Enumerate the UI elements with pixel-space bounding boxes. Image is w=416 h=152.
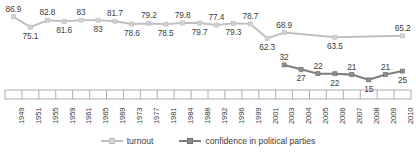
data-label: 62.3 (259, 42, 275, 52)
data-label: 32 (280, 52, 289, 62)
legend-label-confidence: confidence in political parties (205, 136, 315, 146)
chart-container: 86.975.182.881.6838381.778.679.278.579.8… (0, 0, 416, 152)
data-label: 86.9 (6, 4, 22, 14)
x-axis-tick-label: 1961 (84, 108, 93, 125)
x-axis-tick-label: 1977 (152, 108, 161, 125)
x-axis-tick-label: 2008 (372, 108, 381, 125)
x-axis-tick-label: 1992 (220, 108, 229, 125)
legend-line-icon-turnout (101, 137, 123, 145)
data-label: 15 (364, 84, 373, 94)
legend-item-turnout[interactable]: turnout (101, 136, 154, 146)
data-label: 22 (330, 78, 339, 88)
x-axis-tick-label: 2009 (389, 108, 398, 125)
x-axis-tick-label: 1955 (51, 108, 60, 125)
x-axis-tick-label: 2007 (355, 108, 364, 125)
data-label: 79.3 (226, 27, 242, 37)
x-axis-tick-label: 2004 (304, 108, 313, 125)
x-axis-tick-label: 1996 (237, 108, 246, 125)
x-axis-tick-label: 1999 (254, 108, 263, 125)
data-label: 78.7 (242, 11, 258, 21)
x-axis-tick-label: 2005 (321, 108, 330, 125)
data-label: 22 (313, 61, 322, 71)
legend-line-icon-confidence (179, 137, 201, 145)
data-label: 82.8 (39, 7, 55, 17)
x-axis-tick-label: 2001 (271, 108, 280, 125)
data-label: 81.7 (107, 8, 123, 18)
x-axis-tick-label: 1949 (17, 108, 26, 125)
x-axis-tick-label: 1973 (135, 108, 144, 125)
data-label: 83 (77, 7, 86, 17)
data-label: 79.8 (175, 10, 191, 20)
data-label: 63.5 (327, 41, 343, 51)
data-label: 21 (381, 62, 390, 72)
data-label: 68.9 (276, 20, 292, 30)
x-axis-tick-label: 1959 (68, 108, 77, 125)
x-axis-tick-label: 1951 (34, 108, 43, 125)
chart-legend: turnout confidence in political parties (0, 130, 416, 152)
x-axis-tick-label: 2006 (338, 108, 347, 125)
data-label: 81.6 (56, 25, 72, 35)
legend-item-confidence[interactable]: confidence in political parties (179, 136, 315, 146)
data-label: 27 (297, 73, 306, 83)
x-axis-tick-label: 2003 (287, 108, 296, 125)
data-label: 25 (398, 75, 407, 85)
x-axis-tick-label: 2010 (406, 108, 415, 125)
x-axis-tick-label: 1988 (203, 108, 212, 125)
x-axis-tick-label: 1984 (186, 108, 195, 125)
data-label: 77.4 (209, 12, 225, 22)
data-label: 75.1 (23, 31, 39, 41)
data-label: 79.2 (141, 10, 157, 20)
x-axis-tick-label: 1981 (169, 108, 178, 125)
legend-label-turnout: turnout (127, 136, 154, 146)
data-label: 65.2 (395, 23, 411, 33)
x-axis-tick-label: 1965 (101, 108, 110, 125)
data-label: 78.6 (124, 28, 140, 38)
data-label: 21 (347, 62, 356, 72)
data-label: 78.5 (158, 28, 174, 38)
x-axis-tick-label: 1969 (118, 108, 127, 125)
data-label: 83 (94, 24, 103, 34)
data-label: 79.7 (192, 27, 208, 37)
